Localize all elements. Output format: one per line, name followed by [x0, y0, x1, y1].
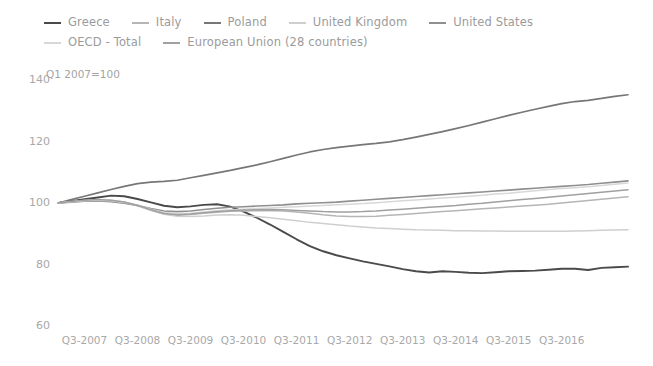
x-axis-tick-label: Q3-2010 — [221, 335, 266, 346]
x-axis-tick-label: Q3-2012 — [327, 335, 372, 346]
plot-area — [0, 0, 653, 366]
x-axis-tick-label: Q3-2014 — [433, 335, 478, 346]
x-axis-tick-label: Q3-2007 — [62, 335, 107, 346]
x-axis-tick-label: Q3-2011 — [274, 335, 319, 346]
x-axis-tick-label: Q3-2013 — [380, 335, 425, 346]
x-axis-tick-label: Q3-2016 — [539, 335, 584, 346]
x-axis-tick-label: Q3-2015 — [486, 335, 531, 346]
series-line-poland — [58, 95, 628, 203]
line-chart: GreeceItalyPolandUnited KingdomUnited St… — [0, 0, 653, 366]
x-axis-tick-label: Q3-2009 — [168, 335, 213, 346]
x-axis-tick-label: Q3-2008 — [115, 335, 160, 346]
